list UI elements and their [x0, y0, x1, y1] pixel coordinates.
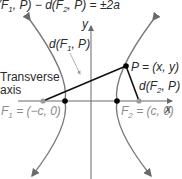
vertex-right-dot	[114, 98, 120, 104]
equation-text: (F1, P) − d(F2, P) = ±2a	[0, 0, 120, 14]
d-f2-p-label: d(F2, P)	[139, 79, 180, 95]
focus-f2-label: F2 = (c, 0)	[121, 104, 174, 120]
focus-f1-label: F1 = (−c, 0)	[1, 104, 61, 120]
hyperbola-diagram: (F1, P) − d(F2, P) = ±2a x y d(F1, P) P …	[0, 0, 182, 179]
focus-f1-dot	[40, 98, 45, 103]
d-f1-p-pointer	[70, 53, 80, 74]
vertex-left-dot	[62, 98, 68, 104]
d-f1-p-label: d(F1, P)	[49, 37, 90, 53]
y-axis-label: y	[81, 17, 89, 31]
transverse-axis-label-line2: axis	[0, 83, 21, 97]
right-branch	[116, 20, 153, 176]
point-p-dot	[123, 63, 129, 69]
focus-f2-dot	[136, 98, 141, 103]
point-p-label: P = (x, y)	[131, 60, 179, 74]
transverse-axis-label-line1: Transverse	[0, 70, 60, 84]
